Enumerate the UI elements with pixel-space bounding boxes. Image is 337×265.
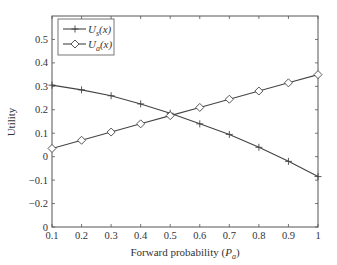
y-tick-label: −0.2: [29, 198, 48, 209]
y-tick-label: −0.1: [29, 175, 48, 186]
series-us: [49, 82, 322, 180]
x-axis-label: Forward probability (Pa): [130, 246, 239, 261]
x-tick-label: 0.4: [134, 230, 148, 241]
x-tick-label: 0.5: [164, 230, 177, 241]
x-tick-label: 0.3: [105, 230, 118, 241]
y-tick-label: 0.2: [35, 104, 48, 115]
y-axis-label: Utility: [5, 107, 17, 136]
x-tick-label: 1: [315, 230, 320, 241]
x-axis-label-main: Forward probability (: [130, 246, 225, 259]
y-tick-label: 0.3: [35, 81, 48, 92]
x-tick-label: 0.9: [282, 230, 295, 241]
y-tick-label: 0: [43, 151, 48, 162]
x-tick-label: 0.2: [75, 230, 88, 241]
diamond-marker: [225, 95, 233, 103]
y-tick-label: 0.5: [35, 34, 48, 45]
utility-chart: 0.10.20.30.40.50.60.70.80.910−0.2−0.100.…: [0, 0, 337, 265]
diamond-marker: [107, 128, 115, 136]
y-tick-label: 0.1: [35, 128, 48, 139]
diamond-marker: [196, 103, 204, 111]
diamond-marker: [314, 71, 322, 79]
legend: Us(x)Ua(x): [58, 19, 114, 55]
diamond-marker: [255, 87, 263, 95]
diamond-marker: [48, 144, 56, 152]
x-tick-label: 0.8: [252, 230, 265, 241]
series-line: [52, 85, 318, 176]
y-tick-label: 0.4: [35, 57, 49, 68]
diamond-marker: [137, 120, 145, 128]
x-tick-label: 0.6: [193, 230, 206, 241]
series-layer: [48, 71, 322, 180]
series-line: [52, 75, 318, 149]
diamond-marker: [284, 79, 292, 87]
series-ua: [48, 71, 322, 153]
y-tick-label: 0: [43, 222, 48, 233]
diamond-marker: [78, 136, 86, 144]
x-axis-label-close: ): [236, 246, 240, 259]
x-tick-label: 0.7: [223, 230, 236, 241]
